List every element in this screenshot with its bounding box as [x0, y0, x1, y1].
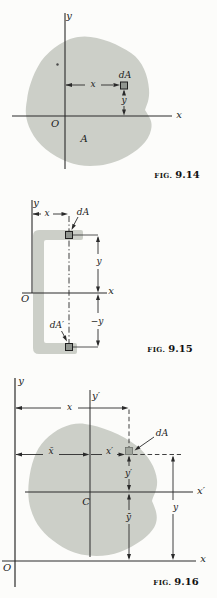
fig14-element-label: dA	[119, 71, 131, 80]
fig15-dim-neg-y-label: −y	[91, 317, 104, 326]
fig15-element-bottom-label: dA′	[50, 321, 64, 330]
fig14-caption-number: 9.14	[175, 169, 199, 180]
fig15-element-top-square	[66, 232, 73, 239]
fig14-caption: FIG. 9.14	[154, 169, 199, 180]
fig15-origin-label: O	[21, 294, 29, 304]
fig15-element-bottom-square	[66, 344, 73, 351]
fig15-element-top-leader-arrow	[72, 217, 79, 230]
fig16-dim-x-label: x	[67, 403, 72, 412]
fig15-channel-shape	[33, 230, 83, 354]
fig16-dim-ybar-label: ȳ	[126, 513, 131, 522]
fig16-dim-xbar-label: x̄	[48, 447, 53, 456]
fig15-caption-number: 9.15	[168, 343, 192, 354]
textbook-figures-page: y x O A dA x y FIG. 9.14	[0, 0, 217, 598]
fig15-dim-y-label: y	[96, 257, 101, 266]
fig16-area-shape	[28, 424, 157, 556]
fig14-dim-x-label: x	[90, 80, 95, 89]
fig14-y-axis-label: y	[66, 11, 72, 21]
fig16-x-prime-axis-label: x′	[197, 486, 205, 496]
fig15-dim-x-label: x	[44, 209, 49, 218]
fig14-dim-y-label: y	[121, 96, 126, 105]
fig16-caption: FIG. 9.16	[153, 576, 198, 587]
fig14-area-label: A	[80, 134, 87, 144]
fig15-y-axis-label: y	[33, 198, 39, 208]
fig16-caption-number: 9.16	[174, 576, 198, 587]
fig16-caption-prefix: FIG.	[153, 578, 171, 587]
figure-9-16: y y′ x′ x O C dA x x̄ x′ y′ ȳ y FIG. 9.1…	[0, 370, 217, 598]
figure-9-15: y x O dA dA′ x y −y FIG. 9.15	[0, 185, 217, 370]
fig16-x-axis-label: x	[200, 554, 206, 564]
fig14-speck-dot	[56, 63, 58, 65]
fig14-x-axis-label: x	[176, 110, 182, 120]
fig16-element-square	[126, 448, 133, 455]
fig14-element-square	[121, 82, 128, 89]
fig16-diagram	[0, 370, 217, 598]
fig16-y-prime-axis-label: y′	[92, 391, 100, 401]
fig15-element-top-label: dA	[77, 208, 89, 217]
fig14-diagram	[0, 0, 217, 185]
fig15-element-bottom-leader-arrow	[62, 331, 68, 342]
fig16-y-axis-label: y	[18, 376, 24, 386]
fig16-element-leader-arrow	[135, 437, 155, 451]
fig16-dim-x-prime-label: x′	[106, 447, 113, 456]
fig15-dim-x-arrow	[33, 212, 69, 216]
fig16-dim-y-prime-label: y′	[125, 468, 132, 477]
fig16-centroid-label: C	[82, 497, 90, 507]
fig15-extension-lines	[73, 235, 98, 347]
fig14-area-shape	[26, 36, 152, 166]
fig15-x-axis-label: x	[108, 286, 114, 296]
fig16-element-label: dA	[156, 429, 168, 438]
fig16-origin-label: O	[3, 563, 11, 573]
fig16-dim-y-label: y	[173, 503, 178, 512]
figure-9-14: y x O A dA x y FIG. 9.14	[0, 0, 217, 185]
fig14-caption-prefix: FIG.	[154, 171, 172, 180]
fig15-caption: FIG. 9.15	[147, 343, 192, 354]
fig14-origin-label: O	[51, 119, 59, 129]
fig15-caption-prefix: FIG.	[147, 345, 165, 354]
